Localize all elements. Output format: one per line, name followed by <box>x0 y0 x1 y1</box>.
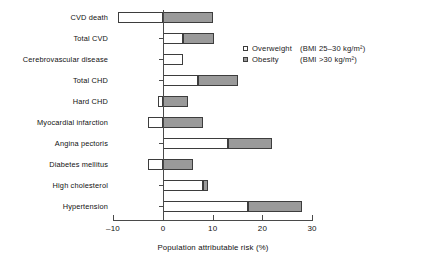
x-axis-tick-label: –10 <box>98 224 128 233</box>
x-axis-tick <box>113 215 114 220</box>
bar-obesity-hypertension <box>248 201 303 212</box>
bar-overweight-myocardial-infarction <box>148 117 163 128</box>
x-axis-tick <box>213 215 214 220</box>
category-label: Myocardial infarction <box>0 118 108 127</box>
bar-obesity-angina-pectoris <box>228 138 273 149</box>
bar-overweight-total-chd <box>163 75 198 86</box>
filled-square-icon <box>243 57 248 62</box>
legend-detail: (BMI >30 kg/m²) <box>300 54 357 65</box>
bar-obesity-high-cholesterol <box>203 180 208 191</box>
category-label: Total CVD <box>0 34 108 43</box>
bar-obesity-myocardial-infarction <box>163 117 203 128</box>
category-label: Angina pectoris <box>0 139 108 148</box>
bar-obesity-diabetes-mellitus <box>163 159 193 170</box>
x-axis-tick <box>312 215 313 220</box>
population-attributable-risk-chart: CVD death Total CVD Cerebrovascular dise… <box>0 0 421 265</box>
zero-axis-line <box>163 10 164 221</box>
x-axis-tick-label: 30 <box>297 224 327 233</box>
x-axis-tick <box>262 215 263 220</box>
bar-obesity-cvd-death <box>163 12 213 23</box>
x-axis-tick-label: 0 <box>148 224 178 233</box>
legend-label: Obesity <box>252 54 279 65</box>
bar-overweight-high-cholesterol <box>163 180 203 191</box>
bar-overweight-hypertension <box>163 201 248 212</box>
bar-overweight-diabetes-mellitus <box>148 159 163 170</box>
category-label: Cerebrovascular disease <box>0 55 108 64</box>
x-axis-line <box>113 220 313 221</box>
x-axis-tick-label: 20 <box>247 224 277 233</box>
legend-detail: (BMI 25–30 kg/m²) <box>300 43 365 54</box>
bar-overweight-total-cvd <box>163 33 183 44</box>
category-label: CVD death <box>0 13 108 22</box>
bar-overweight-cerebrovascular-disease <box>163 54 183 65</box>
bar-overweight-angina-pectoris <box>163 138 228 149</box>
open-square-icon <box>243 46 248 51</box>
x-axis-tick <box>163 215 164 220</box>
legend-label: Overweight <box>252 43 292 54</box>
x-axis-tick-label: 10 <box>198 224 228 233</box>
x-axis-title: Population attributable risk (%) <box>113 243 313 252</box>
category-label: Diabetes mellitus <box>0 160 108 169</box>
bar-obesity-hard-chd <box>163 96 188 107</box>
bar-overweight-cvd-death <box>118 12 163 23</box>
category-label: Hard CHD <box>0 97 108 106</box>
category-label: Total CHD <box>0 76 108 85</box>
bar-obesity-total-chd <box>198 75 238 86</box>
bar-obesity-total-cvd <box>183 33 214 44</box>
category-label: Hypertension <box>0 202 108 211</box>
category-label: High cholesterol <box>0 181 108 190</box>
